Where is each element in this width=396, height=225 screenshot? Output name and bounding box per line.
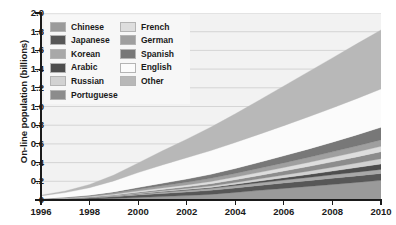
x-tick — [283, 200, 284, 205]
legend-column-left: ChineseJapaneseKoreanArabicRussianPortug… — [50, 20, 118, 102]
legend-swatch-japanese-icon — [50, 35, 66, 45]
x-axis-line — [40, 199, 382, 201]
x-tick — [89, 200, 90, 205]
legend-item-other[interactable]: Other — [120, 74, 174, 88]
x-tick-label: 2010 — [359, 206, 396, 217]
legend-label: Korean — [71, 50, 100, 59]
y-tick-label: 0.8 — [4, 119, 44, 130]
legend-label: Japanese — [71, 36, 110, 45]
x-tick — [235, 200, 236, 205]
y-tick-label: 1.0 — [4, 101, 44, 112]
legend-label: French — [141, 23, 169, 32]
legend-label: German — [141, 36, 173, 45]
y-tick-label: 0.2 — [4, 175, 44, 186]
legend-label: Russian — [71, 77, 104, 86]
legend-item-chinese[interactable]: Chinese — [50, 20, 118, 34]
x-tick-label: 2006 — [262, 206, 306, 217]
y-tick-label: 1.6 — [4, 44, 44, 55]
y-tick-label: 0.4 — [4, 157, 44, 168]
legend-label: Arabic — [71, 63, 97, 72]
legend-swatch-korean-icon — [50, 49, 66, 59]
legend: ChineseJapaneseKoreanArabicRussianPortug… — [44, 15, 190, 104]
legend-item-russian[interactable]: Russian — [50, 74, 118, 88]
legend-label: Chinese — [71, 23, 104, 32]
x-tick — [40, 200, 41, 205]
legend-swatch-other-icon — [120, 76, 136, 86]
x-tick-label: 2004 — [213, 206, 257, 217]
legend-item-portuguese[interactable]: Portuguese — [50, 88, 118, 102]
legend-swatch-english-icon — [120, 63, 136, 73]
legend-item-arabic[interactable]: Arabic — [50, 61, 118, 75]
x-tick-label: 2000 — [116, 206, 160, 217]
legend-label: Other — [141, 77, 164, 86]
x-tick — [186, 200, 187, 205]
legend-item-spanish[interactable]: Spanish — [120, 47, 174, 61]
legend-label: Spanish — [141, 50, 174, 59]
legend-item-japanese[interactable]: Japanese — [50, 34, 118, 48]
x-tick — [380, 200, 381, 205]
legend-item-french[interactable]: French — [120, 20, 174, 34]
y-tick-label: 1.4 — [4, 63, 44, 74]
y-tick-label: 0.6 — [4, 138, 44, 149]
legend-swatch-portuguese-icon — [50, 90, 66, 100]
legend-swatch-spanish-icon — [120, 49, 136, 59]
x-tick-label: 2002 — [165, 206, 209, 217]
y-tick-label: 1.2 — [4, 82, 44, 93]
legend-label: Portuguese — [71, 91, 118, 100]
legend-column-right: FrenchGermanSpanishEnglishOther — [120, 20, 174, 88]
x-tick — [332, 200, 333, 205]
legend-item-english[interactable]: English — [120, 61, 174, 75]
legend-item-german[interactable]: German — [120, 34, 174, 48]
legend-label: English — [141, 63, 172, 72]
x-tick — [138, 200, 139, 205]
legend-swatch-arabic-icon — [50, 63, 66, 73]
y-tick-label: 0 — [4, 194, 44, 205]
legend-swatch-french-icon — [120, 22, 136, 32]
legend-swatch-russian-icon — [50, 76, 66, 86]
x-tick-label: 1998 — [68, 206, 112, 217]
y-tick-label: 1.8 — [4, 26, 44, 37]
legend-item-korean[interactable]: Korean — [50, 47, 118, 61]
y-tick-label: 2.0 — [4, 7, 44, 18]
x-tick-label: 2008 — [310, 206, 354, 217]
x-tick-label: 1996 — [19, 206, 63, 217]
legend-swatch-german-icon — [120, 35, 136, 45]
legend-swatch-chinese-icon — [50, 22, 66, 32]
